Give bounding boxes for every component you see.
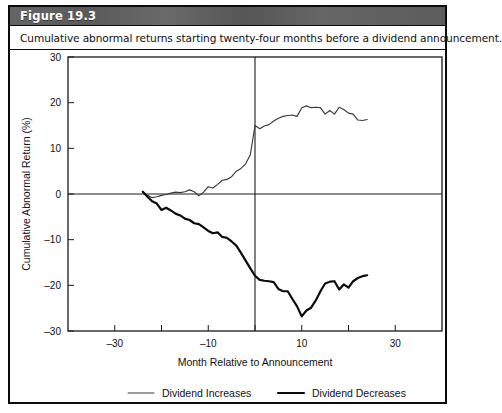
figure-caption-text: Cumulative abnormal returns starting twe… — [20, 32, 502, 44]
y-tick-label: 20 — [50, 97, 62, 108]
y-axis-title: Cumulative Abnormal Return (%) — [20, 117, 32, 270]
chart-svg: 3020100–10–20–30–30–101030 Dividend Incr… — [10, 50, 445, 401]
x-tick-label: 10 — [296, 338, 308, 349]
x-axis-title: Month Relative to Announcement — [178, 356, 333, 368]
x-tick-label: –10 — [200, 338, 217, 349]
figure-number-label: Figure 19.3 — [20, 9, 96, 23]
chart-axes: 3020100–10–20–30–30–101030 — [44, 52, 442, 349]
y-tick-label: 0 — [55, 189, 61, 200]
plot-area: 3020100–10–20–30–30–101030 Dividend Incr… — [10, 50, 445, 401]
x-tick-label: 30 — [390, 338, 402, 349]
legend-label-decreases: Dividend Decreases — [312, 387, 406, 399]
legend-label-increases: Dividend Increases — [162, 387, 251, 399]
y-tick-label: 10 — [50, 143, 62, 154]
y-tick-label: –30 — [44, 326, 61, 337]
x-tick-label: –30 — [106, 338, 123, 349]
figure-header-bar: Figure 19.3 — [10, 7, 445, 26]
figure-caption: Cumulative abnormal returns starting twe… — [10, 26, 445, 50]
chart-legend: Dividend IncreasesDividend Decreases — [128, 387, 406, 399]
y-tick-label: –20 — [44, 280, 61, 291]
y-tick-label: 30 — [50, 52, 62, 63]
figure-card: Figure 19.3 Cumulative abnormal returns … — [8, 5, 447, 404]
y-tick-label: –10 — [44, 234, 61, 245]
